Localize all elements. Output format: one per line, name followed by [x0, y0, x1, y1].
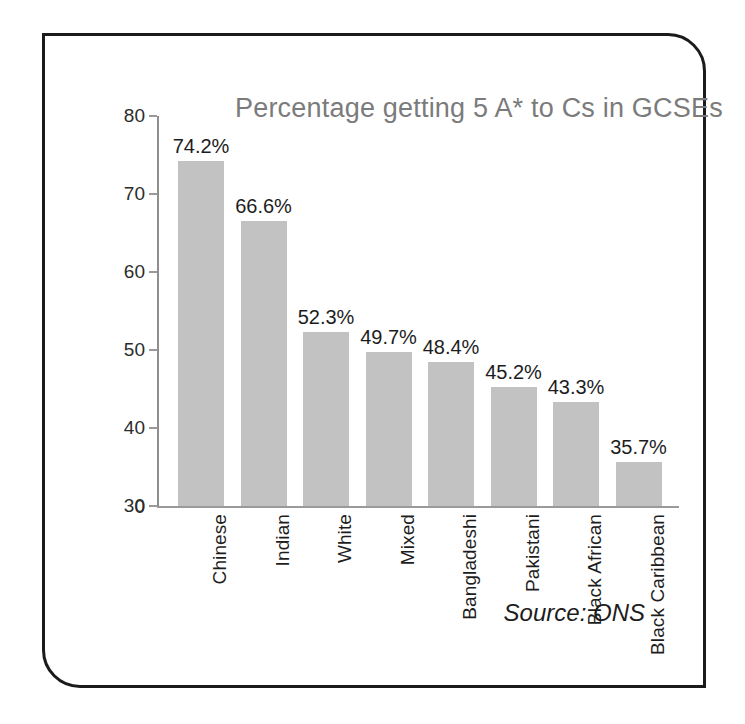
bar: [366, 352, 412, 506]
source-note: Source: ONS: [504, 599, 645, 627]
bar: [241, 221, 287, 506]
bar-item: 45.2%: [491, 387, 537, 506]
y-axis-tick-label: 80: [99, 105, 145, 127]
y-axis-line: [157, 116, 159, 507]
x-axis-category-label: Chinese: [209, 514, 231, 584]
y-axis-tick-label: 50: [99, 339, 145, 361]
bar-item: 52.3%: [303, 332, 349, 506]
y-axis-tick-mark: [149, 505, 157, 507]
bar: [616, 462, 662, 506]
bar-value-label: 35.7%: [593, 436, 685, 459]
y-axis-tick-label: 70: [99, 183, 145, 205]
chart-figure: Percentage getting 5 A* to Cs in GCSEs 8…: [0, 0, 745, 724]
bar-value-label: 74.2%: [155, 135, 247, 158]
y-axis-tick-mark: [149, 427, 157, 429]
chart-title: Percentage getting 5 A* to Cs in GCSEs: [235, 93, 745, 124]
x-axis-category-label: Black Caribbean: [647, 514, 669, 655]
y-axis-tick-mark: [149, 271, 157, 273]
x-axis-category-label: Indian: [272, 514, 294, 566]
y-axis-tick-label: 0: [99, 496, 145, 518]
x-axis-category-label: Pakistani: [522, 514, 544, 592]
bar-value-label: 43.3%: [530, 376, 622, 399]
y-axis-tick-label: 60: [99, 261, 145, 283]
bar-value-label: 48.4%: [405, 336, 497, 359]
bar: [303, 332, 349, 506]
y-axis-ticks: 8070605040300: [45, 36, 145, 536]
y-axis-tick-label: 40: [99, 417, 145, 439]
bar-item: 49.7%: [366, 352, 412, 506]
bar-value-label: 66.6%: [218, 195, 310, 218]
y-axis-tick-mark: [149, 193, 157, 195]
y-axis-tick-mark: [149, 349, 157, 351]
bar-item: 35.7%: [616, 462, 662, 506]
x-axis-category-label: Bangladeshi: [459, 514, 481, 620]
bar: [491, 387, 537, 506]
chart-frame: Percentage getting 5 A* to Cs in GCSEs 8…: [42, 33, 706, 688]
x-axis-category-label: White: [334, 514, 356, 563]
y-axis-tick-mark: [149, 115, 157, 117]
x-axis-line: [157, 506, 679, 508]
x-axis-category-label: Mixed: [397, 514, 419, 565]
bar-item: 66.6%: [241, 221, 287, 506]
